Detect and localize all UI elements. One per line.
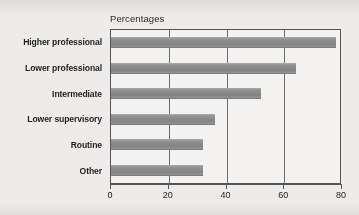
bar <box>111 139 203 150</box>
bar-row <box>111 81 340 107</box>
x-axis-tick-label: 20 <box>163 190 173 200</box>
bar <box>111 165 203 176</box>
bar-row <box>111 107 340 133</box>
bar-chart-figure: Percentages Higher professional Lower pr… <box>0 0 359 215</box>
bars-layer <box>111 30 340 183</box>
category-label: Higher professional <box>0 29 106 55</box>
plot-area <box>110 29 341 184</box>
category-label: Lower professional <box>0 55 106 81</box>
category-label: Lower supervisory <box>0 106 106 132</box>
bar-row <box>111 56 340 82</box>
category-axis-labels: Higher professional Lower professional I… <box>0 29 106 184</box>
bar-row <box>111 30 340 56</box>
x-axis-tick-label: 60 <box>278 190 288 200</box>
bar-row <box>111 158 340 184</box>
x-axis-line <box>110 184 341 185</box>
bar <box>111 88 261 99</box>
x-axis-tick <box>341 184 342 189</box>
bar-row <box>111 132 340 158</box>
x-axis-tick-label: 0 <box>107 190 112 200</box>
category-label: Intermediate <box>0 81 106 107</box>
x-axis-tick-label: 40 <box>220 190 230 200</box>
x-axis-tick-labels: 020406080 <box>110 190 341 204</box>
category-label: Routine <box>0 132 106 158</box>
x-axis-tick-label: 80 <box>336 190 346 200</box>
bar <box>111 37 336 48</box>
bar <box>111 63 296 74</box>
chart-axis-title: Percentages <box>110 13 164 24</box>
bar <box>111 114 215 125</box>
category-label: Other <box>0 158 106 184</box>
